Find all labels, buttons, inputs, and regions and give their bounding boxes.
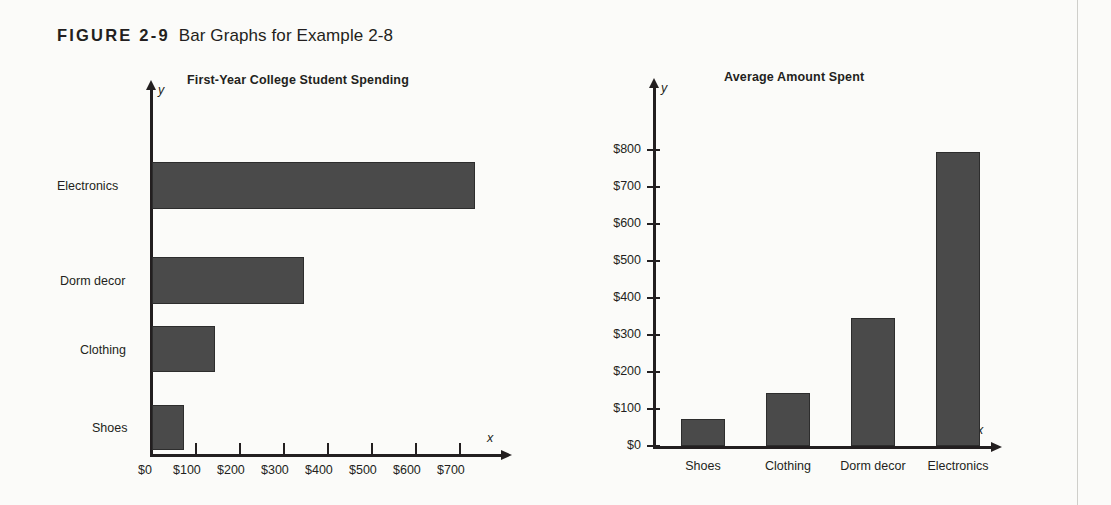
- y-axis-tick: [647, 260, 660, 262]
- category-label-clothing: Clothing: [759, 459, 817, 473]
- bar-clothing: [766, 393, 810, 446]
- bar-shoes: [681, 419, 725, 446]
- chart-average-amount-spent: Average Amount Spent y x $0 $100 $200 $3…: [0, 0, 1111, 505]
- y-axis-arrowhead: [649, 78, 659, 88]
- y-axis-tick: [647, 445, 660, 447]
- category-label-shoes: Shoes: [679, 459, 727, 473]
- y-axis-tick-label: $300: [589, 327, 641, 341]
- y-axis-tick: [647, 297, 660, 299]
- category-label-electronics: Electronics: [921, 459, 995, 473]
- y-axis-tick: [647, 223, 660, 225]
- y-axis-tick-label: $100: [589, 401, 641, 415]
- y-axis-tick-label: $400: [589, 290, 641, 304]
- y-axis-tick-label: $500: [589, 253, 641, 267]
- y-axis-tick-label: $0: [609, 438, 641, 452]
- y-axis-tick-label: $700: [589, 179, 641, 193]
- bar-electronics: [936, 152, 980, 446]
- y-axis-tick-label: $600: [589, 216, 641, 230]
- y-axis-tick: [647, 371, 660, 373]
- x-axis-arrowhead: [991, 442, 1002, 452]
- y-axis-label: y: [661, 81, 667, 95]
- bar-dorm-decor: [851, 318, 895, 446]
- chart-title: Average Amount Spent: [724, 70, 864, 84]
- category-label-dorm-decor: Dorm decor: [838, 459, 908, 474]
- y-axis-tick: [647, 149, 660, 151]
- y-axis-tick-label: $200: [589, 364, 641, 378]
- x-axis-line: [653, 446, 991, 449]
- y-axis-line: [653, 88, 656, 448]
- y-axis-tick-label: $800: [589, 142, 641, 156]
- y-axis-tick: [647, 334, 660, 336]
- y-axis-tick: [647, 186, 660, 188]
- y-axis-tick: [647, 408, 660, 410]
